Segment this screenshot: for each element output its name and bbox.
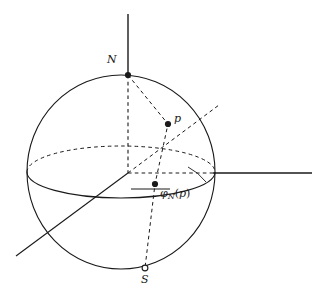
south-pole-label: S (141, 274, 149, 285)
point-p-marker (165, 121, 171, 127)
phi-subscript: N (168, 192, 175, 201)
projected-point-marker (152, 181, 158, 187)
projection-ray-dashed (128, 75, 168, 268)
point-p-label: p (174, 113, 181, 124)
phi-symbol: φ (160, 187, 168, 200)
stereographic-projection-diagram (0, 0, 317, 299)
projected-point-label: φN(p) (160, 188, 190, 201)
equator-back-dashed (27, 146, 215, 172)
north-pole-label: N (107, 54, 117, 65)
phi-close-paren: ) (186, 187, 190, 200)
north-pole-marker (125, 72, 131, 78)
phi-label-leader-line (188, 167, 206, 182)
sphere-outline (27, 75, 215, 269)
phi-argument: p (179, 187, 186, 200)
figure-canvas: N S p φN(p) (0, 0, 317, 299)
south-pole-marker (142, 265, 148, 271)
diagonal-axis (16, 173, 128, 256)
